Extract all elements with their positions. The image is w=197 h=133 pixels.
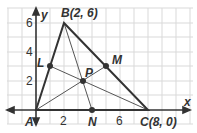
- label-c: C(8, 0): [140, 115, 177, 129]
- y-tick-2: 2: [26, 74, 33, 88]
- coordinate-diagram: 6 4 2 2 6 y x B(2, 6) L M P A N C(8, 0): [0, 0, 197, 133]
- label-m: M: [112, 53, 123, 67]
- label-l: L: [37, 56, 44, 70]
- x-tick-6: 6: [116, 114, 123, 128]
- y-tick-4: 4: [26, 45, 33, 59]
- point-l: [47, 63, 53, 69]
- label-a: A: [24, 115, 34, 129]
- point-n: [89, 107, 95, 113]
- y-tick-6: 6: [26, 16, 33, 30]
- label-n: N: [88, 115, 97, 129]
- grid: [7, 8, 193, 124]
- label-b: B(2, 6): [61, 6, 98, 20]
- label-p: P: [85, 66, 94, 80]
- y-arrow-icon: [33, 8, 39, 15]
- x-tick-2: 2: [60, 114, 67, 128]
- x-axis-label: x: [183, 95, 192, 109]
- point-m: [103, 63, 109, 69]
- y-axis-label: y: [40, 8, 49, 22]
